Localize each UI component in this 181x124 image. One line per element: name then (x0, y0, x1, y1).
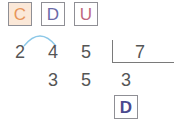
partial-dividend-digit-1: 3 (45, 71, 61, 89)
division-bracket-horizontal (112, 62, 174, 63)
partial-dividend-digit-2: 5 (78, 71, 94, 89)
quotient-place-box: D (114, 95, 138, 119)
division-bracket-vertical (112, 40, 113, 63)
hundreds-label: C (14, 6, 26, 23)
divisor: 7 (132, 43, 148, 61)
tens-box: D (41, 2, 65, 26)
units-label: U (80, 6, 92, 23)
tens-label: D (47, 6, 59, 23)
quotient-place-label: D (120, 99, 132, 116)
quotient-digit: 3 (118, 71, 134, 89)
dividend-digit-hundreds: 2 (12, 43, 28, 61)
hundreds-box: C (8, 2, 32, 26)
dividend-digit-units: 5 (78, 43, 94, 61)
dividend-digit-tens: 4 (45, 43, 61, 61)
units-box: U (74, 2, 98, 26)
